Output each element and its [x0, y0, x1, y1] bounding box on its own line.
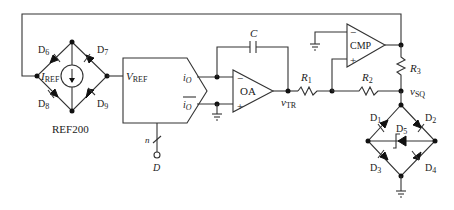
- comparator: − + CMP: [310, 24, 404, 91]
- current-source-icon: [61, 65, 83, 87]
- top-feedback-wire: [22, 14, 401, 76]
- opamp-minus: −: [237, 72, 243, 84]
- label-io: iO: [183, 72, 192, 85]
- label-vtr: vTR: [281, 96, 297, 110]
- diode-d3-icon: [378, 150, 388, 160]
- diode-d4-icon: [412, 151, 421, 160]
- label-c: C: [250, 27, 258, 39]
- label-oa: OA: [240, 85, 256, 97]
- diode-d9-icon: [86, 88, 95, 98]
- dac-block: VREF iO iO n D: [123, 58, 207, 173]
- label-d9: D9: [97, 98, 108, 111]
- ground-icon: [212, 104, 222, 120]
- label-vsq: vSQ: [410, 85, 425, 99]
- label-d4: D4: [425, 162, 436, 175]
- circuit-schematic: D6 D7 D8 D9 IREF REF200 VREF iO iO n D: [0, 0, 454, 210]
- label-iref: IREF: [40, 70, 60, 84]
- label-d6: D6: [38, 44, 49, 57]
- label-vref: VREF: [126, 70, 148, 84]
- label-d1: D1: [370, 112, 381, 125]
- label-r3: R3: [409, 62, 421, 76]
- cmp-minus: −: [350, 26, 356, 38]
- ref200-bridge: D6 D7 D8 D9 IREF REF200: [35, 40, 110, 136]
- label-d7: D7: [97, 44, 108, 57]
- label-n: n: [145, 135, 150, 145]
- label-ref200: REF200: [52, 123, 89, 135]
- label-d-input: D: [152, 162, 161, 173]
- label-io-bar: iO: [183, 99, 192, 112]
- opamp-plus: +: [237, 100, 243, 112]
- diode-d2-icon: [413, 120, 424, 132]
- label-cmp: CMP: [350, 40, 372, 51]
- resistor-r1: R1: [298, 71, 332, 95]
- label-d3: D3: [370, 162, 381, 175]
- diode-d8-icon: [48, 89, 58, 98]
- resistor-r2: R2: [332, 71, 401, 95]
- label-d2: D2: [425, 112, 436, 125]
- limiter-bridge: D1 D2 D5 D3 D4: [366, 91, 438, 197]
- label-d8: D8: [38, 98, 49, 111]
- ground-icon: [396, 176, 406, 197]
- capacitor-icon: [250, 41, 256, 53]
- resistor-r3: R3: [397, 45, 421, 91]
- ground-icon: [310, 44, 320, 50]
- cmp-plus: +: [350, 54, 356, 66]
- label-r1: R1: [300, 71, 312, 85]
- label-r2: R2: [361, 71, 373, 85]
- integrator: C − + OA vTR: [217, 27, 298, 112]
